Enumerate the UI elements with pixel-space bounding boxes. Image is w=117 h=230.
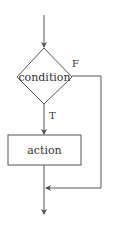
true-label: T [49,110,56,121]
flowchart-diagram: condition F T action [0,0,117,230]
false-label: F [72,58,79,69]
condition-label: condition [18,71,70,84]
action-label: action [27,144,61,157]
